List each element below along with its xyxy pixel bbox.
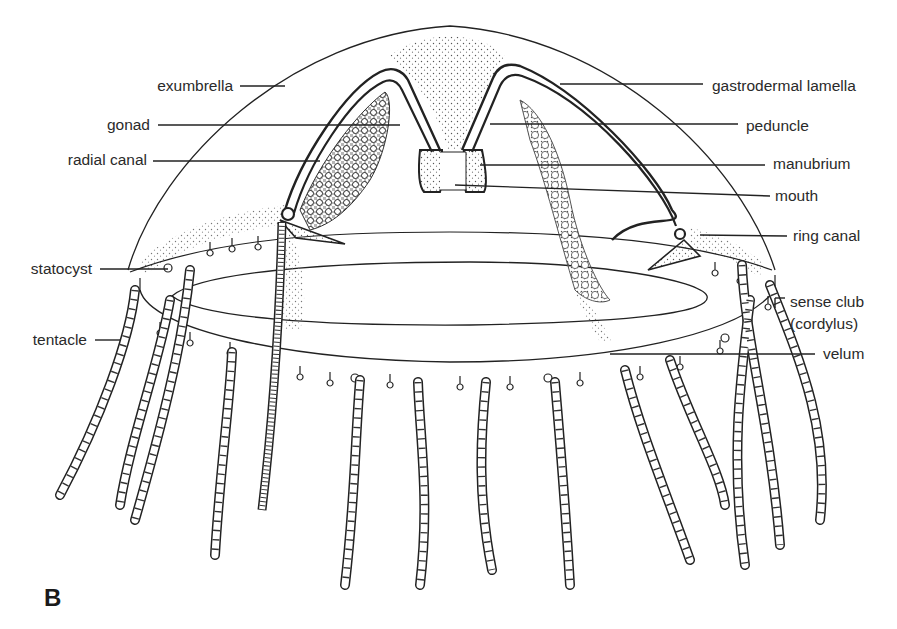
label-mouth: mouth [775,187,818,205]
label-manubrium: manubrium [773,155,851,173]
jellyfish-diagram: exumbrella gonad radial canal statocyst … [0,0,897,629]
label-cordylus: (cordylus) [790,315,858,333]
label-exumbrella: exumbrella [130,77,233,95]
label-gastrodermal-lamella: gastrodermal lamella [712,77,856,95]
peduncle [390,37,505,151]
label-velum: velum [823,345,864,363]
label-radial-canal: radial canal [30,151,147,169]
long-tentacle [262,222,282,510]
label-peduncle: peduncle [746,117,809,135]
ring-canal-junctions [280,208,700,270]
label-sense-club: sense club [790,293,864,311]
label-statocyst: statocyst [0,260,92,278]
panel-letter: B [44,584,61,612]
velum [140,262,775,362]
label-tentacle: tentacle [0,331,87,349]
label-gonad: gonad [80,116,150,134]
label-ring-canal: ring canal [793,227,860,245]
